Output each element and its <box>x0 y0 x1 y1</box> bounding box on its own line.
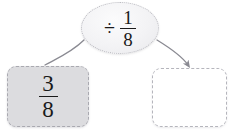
operator-denominator: 8 <box>121 29 135 49</box>
input-curve <box>45 40 84 65</box>
operand-denominator: 8 <box>40 97 56 121</box>
operand-numerator: 3 <box>40 72 56 96</box>
result-box[interactable] <box>152 68 227 127</box>
operator-expression: ÷ 1 8 <box>104 8 136 49</box>
operator-numerator: 1 <box>121 8 135 28</box>
operator-fraction: 1 8 <box>120 8 136 49</box>
operand-fraction: 3 8 <box>39 72 58 121</box>
output-arrow <box>157 40 188 65</box>
division-sign-icon: ÷ <box>104 18 115 38</box>
operand-box: 3 8 <box>7 66 89 127</box>
fraction-division-diagram: ÷ 1 8 3 8 <box>0 0 232 133</box>
operator-node: ÷ 1 8 <box>81 2 159 54</box>
